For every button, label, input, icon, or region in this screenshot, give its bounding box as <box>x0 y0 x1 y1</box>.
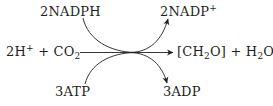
adp-label: 3ADP <box>163 85 201 99</box>
nadph-label: 2NADPH <box>40 5 101 19</box>
adp-out-arrow <box>130 53 167 84</box>
nadp-charge: + <box>209 3 217 13</box>
h2o-h: H <box>246 44 258 59</box>
nadp-name: NADP <box>168 4 209 19</box>
ch2o-open: [CH <box>177 44 204 59</box>
atp-label: 3ATP <box>55 85 90 99</box>
atp-name: ATP <box>63 84 90 99</box>
atp-in-curve <box>85 53 135 85</box>
reactants-label: 2H+ + CO2 <box>6 45 81 59</box>
ch2o-close: O] <box>210 44 226 59</box>
h-charge: + <box>26 43 34 53</box>
adp-name: ADP <box>171 84 200 99</box>
co2-subscript: 2 <box>75 51 81 61</box>
h-symbol: H <box>14 44 26 59</box>
product-plus: + <box>230 44 241 59</box>
reactant-plus: + <box>38 44 49 59</box>
nadp-label: 2NADP+ <box>160 5 217 19</box>
products-label: [CH2O] + H2O <box>177 45 273 59</box>
h2o-o: O <box>263 44 273 59</box>
nadph-in-curve <box>83 18 135 53</box>
nadph-name: NADPH <box>48 4 100 19</box>
co2-symbol: CO <box>54 44 75 59</box>
nadp-out-arrow <box>130 19 168 53</box>
